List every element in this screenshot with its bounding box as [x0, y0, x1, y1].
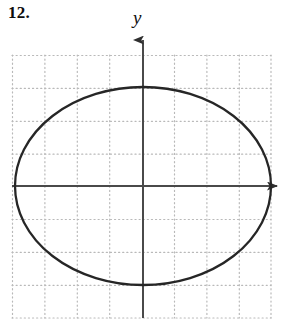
ellipse-graph-plot — [0, 0, 289, 324]
figure-container: 12. y — [0, 0, 289, 324]
